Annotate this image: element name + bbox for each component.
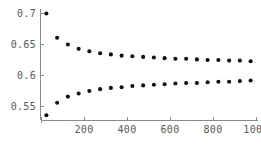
data-point-upper xyxy=(120,54,124,58)
data-point-upper xyxy=(66,42,70,46)
y-tick-label: 0.7 xyxy=(17,9,36,19)
data-point-lower xyxy=(120,85,124,89)
data-point-upper xyxy=(173,57,177,61)
data-point-upper xyxy=(141,55,145,59)
data-point-upper xyxy=(163,56,167,60)
data-point-lower xyxy=(77,91,81,95)
data-point-upper xyxy=(98,51,102,55)
data-point-lower xyxy=(206,80,210,84)
data-point-upper xyxy=(195,57,199,61)
data-point-lower xyxy=(249,78,253,82)
data-point-lower xyxy=(141,83,145,87)
data-point-upper xyxy=(152,55,156,59)
data-point-lower xyxy=(216,80,220,84)
data-point-lower xyxy=(55,101,59,105)
axis-lines xyxy=(41,9,259,120)
data-point-lower xyxy=(227,80,231,84)
data-point-lower xyxy=(44,113,48,117)
data-point-upper xyxy=(55,36,59,40)
y-tick-label: 0.55 xyxy=(11,102,36,112)
data-point-lower xyxy=(163,82,167,86)
data-point-lower xyxy=(87,89,91,93)
data-point-lower xyxy=(66,95,70,99)
data-point-upper xyxy=(130,54,134,58)
data-point-lower xyxy=(195,81,199,85)
y-tick-label: 0.6 xyxy=(17,71,36,81)
data-point-upper xyxy=(206,58,210,62)
data-point-upper xyxy=(249,59,253,63)
data-point-upper xyxy=(227,59,231,63)
series-lower-bound-points xyxy=(44,78,252,117)
data-point-lower xyxy=(152,83,156,87)
data-point-upper xyxy=(87,49,91,53)
x-tick-label: 1000 xyxy=(226,125,261,135)
data-point-lower xyxy=(98,87,102,91)
data-point-lower xyxy=(130,84,134,88)
series-upper-bound-points xyxy=(44,11,252,63)
data-point-upper xyxy=(216,58,220,62)
data-point-upper xyxy=(77,47,81,51)
data-point-upper xyxy=(109,52,113,56)
data-point-lower xyxy=(238,79,242,83)
data-point-lower xyxy=(184,81,188,85)
y-tick-label: 0.65 xyxy=(11,40,36,50)
data-point-upper xyxy=(238,59,242,63)
data-point-upper xyxy=(184,57,188,61)
data-point-upper xyxy=(44,11,48,15)
plot-area xyxy=(0,0,261,165)
data-point-lower xyxy=(173,82,177,86)
data-point-lower xyxy=(109,86,113,90)
scatter-chart: 0.550.60.650.7 2004006008001000 xyxy=(0,0,261,165)
